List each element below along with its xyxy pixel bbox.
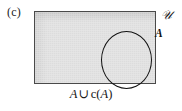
caption-close-paren: ) xyxy=(108,87,112,101)
figure-part-label: (c) xyxy=(7,6,21,18)
figure-caption: A∪c(A) xyxy=(0,88,182,102)
venn-diagram-figure: (c) A 𝒰 A∪c(A) xyxy=(0,0,182,111)
caption-union-operator: ∪ xyxy=(77,87,90,101)
universal-set-symbol: 𝒰 xyxy=(161,9,172,21)
universal-set-rectangle: A xyxy=(34,11,156,84)
set-a-region-label: A xyxy=(155,28,163,40)
caption-inner-set-a: A xyxy=(101,87,109,101)
set-a-circle xyxy=(101,31,152,89)
